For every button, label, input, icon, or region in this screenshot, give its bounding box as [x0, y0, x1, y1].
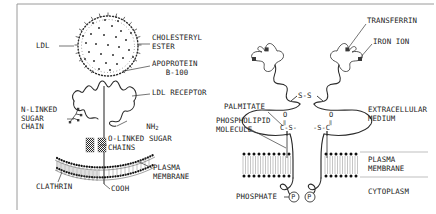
label-left-plasma-membrane: PLASMA MEMBRANE — [153, 164, 189, 181]
membrane-lipid-tails — [243, 156, 358, 174]
label-apoprotein-b100: APOPROTEIN B-100 — [152, 60, 198, 77]
label-transferrin: TRANSFERRIN — [367, 17, 417, 26]
membrane-headgroups-upper-right — [325, 153, 358, 156]
label-ldl-receptor: LDL RECEPTOR — [152, 89, 207, 98]
figure-root: LDL CHOLESTERYL ESTER APOPROTEIN B-100 L… — [0, 0, 436, 214]
label-phospholipid-molecule: PHOSPHOLIPID MOLECULE — [216, 117, 271, 134]
palmitate-right-thioester: -S-C — [313, 125, 330, 132]
label-iron-ion: IRON ION — [373, 38, 409, 47]
label-right-plasma-membrane: PLASMA MEMBRANE — [368, 156, 404, 173]
label-extracellular-medium: EXTRACELLULAR MEDIUM — [368, 106, 427, 123]
label-palmitate: PALMITATE — [224, 103, 265, 112]
label-nh2-text: NH — [146, 122, 155, 131]
cytoplasmic-tails — [280, 178, 321, 196]
ldl-particle — [75, 13, 142, 77]
transferrin-receptor-stalks — [290, 134, 324, 178]
label-phosphate: PHOSPHATE — [236, 193, 277, 202]
membrane-headgroups-upper-left — [243, 153, 291, 156]
palmitate-left-thioester: C-S- — [280, 125, 297, 132]
label-n-linked-sugar-chain: N-LINKED SUGAR CHAIN — [21, 106, 57, 132]
label-ss-bond: S-S — [298, 92, 312, 101]
membrane-headgroups-lower-right — [325, 175, 358, 178]
phosphate-symbol-right: P — [307, 193, 311, 202]
palmitate-right-oxygen: O — [329, 112, 333, 119]
label-cytoplasm: CYTOPLASM — [368, 188, 409, 197]
label-o-linked-sugar-chains: O-LINKED SUGAR CHAINS — [108, 135, 172, 152]
right-plasma-membrane — [243, 153, 358, 178]
phosphate-symbol-left: P — [291, 193, 295, 202]
label-cooh: COOH — [111, 185, 129, 194]
label-clathrin: CLATHRIN — [36, 183, 72, 192]
palmitate-left-oxygen: O — [283, 112, 287, 119]
membrane-headgroups-lower-left — [243, 175, 291, 178]
label-ldl: LDL — [36, 42, 50, 51]
label-nh2-subscript: 2 — [155, 125, 158, 131]
label-cholesteryl-ester: CHOLESTERYL ESTER — [152, 34, 202, 51]
